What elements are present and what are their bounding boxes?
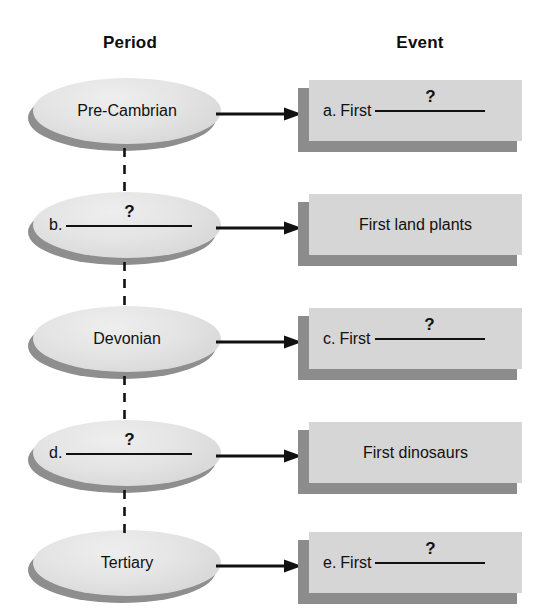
period-answer-blank[interactable]: d.? xyxy=(33,420,221,486)
period-node[interactable]: Devonian xyxy=(28,306,224,384)
period-node[interactable]: b.? xyxy=(28,192,224,270)
timeline-connector-dashed xyxy=(123,148,126,198)
event-box-shadow-bottom xyxy=(298,141,517,152)
event-item-letter: a. xyxy=(323,102,336,120)
column-header-event: Event xyxy=(320,33,520,53)
event-box-shadow-bottom xyxy=(298,255,517,266)
diagram-row: d.?First dinosaurs xyxy=(0,420,552,498)
question-mark: ? xyxy=(424,315,434,335)
event-box[interactable]: e.First? xyxy=(298,532,524,606)
event-box-shadow-bottom xyxy=(298,593,517,604)
event-prefix-text: First xyxy=(339,330,370,348)
timeline-connector-dashed xyxy=(123,376,126,426)
event-prefix-text: First xyxy=(340,554,371,572)
period-answer-blank[interactable]: b.? xyxy=(33,192,221,258)
event-box-shadow-left xyxy=(298,540,309,604)
event-item-letter: e. xyxy=(323,554,336,572)
event-blank-line[interactable]: ? xyxy=(375,109,485,112)
event-box-shadow-left xyxy=(298,430,309,494)
arrow-right-icon xyxy=(216,559,302,573)
event-box[interactable]: a.First? xyxy=(298,80,524,154)
event-item-letter: c. xyxy=(323,330,335,348)
diagram-row: Devonianc.First? xyxy=(0,306,552,384)
period-item-letter: d. xyxy=(49,444,62,462)
period-node-label: Tertiary xyxy=(33,530,221,596)
event-blank-line[interactable]: ? xyxy=(375,337,485,340)
event-answer-blank[interactable]: c.First? xyxy=(309,308,522,369)
period-node[interactable]: d.? xyxy=(28,420,224,498)
event-prefix-text: First xyxy=(340,102,371,120)
period-node-label: Pre-Cambrian xyxy=(33,78,221,144)
event-box-label: First dinosaurs xyxy=(309,422,522,483)
period-item-letter: b. xyxy=(49,216,62,234)
event-box-shadow-bottom xyxy=(298,483,517,494)
event-blank-line[interactable]: ? xyxy=(375,561,485,564)
diagram-row: b.?First land plants xyxy=(0,192,552,270)
period-blank-line[interactable]: ? xyxy=(66,224,192,227)
arrow-right-icon xyxy=(216,221,302,235)
question-mark: ? xyxy=(425,539,435,559)
event-box[interactable]: First land plants xyxy=(298,194,524,268)
event-box-shadow-left xyxy=(298,202,309,266)
event-box[interactable]: c.First? xyxy=(298,308,524,382)
arrow-right-icon xyxy=(216,107,302,121)
arrow-right-icon xyxy=(216,335,302,349)
event-answer-blank[interactable]: e.First? xyxy=(309,532,522,593)
event-answer-blank[interactable]: a.First? xyxy=(309,80,522,141)
period-node-label: Devonian xyxy=(33,306,221,372)
column-header-period: Period xyxy=(40,33,220,53)
timeline-matching-diagram: Period Event Pre-Cambriana.First?b.?Firs… xyxy=(0,0,552,615)
arrow-right-icon xyxy=(216,449,302,463)
event-box-shadow-left xyxy=(298,88,309,152)
diagram-row: Pre-Cambriana.First? xyxy=(0,78,552,156)
period-node[interactable]: Tertiary xyxy=(28,530,224,608)
timeline-connector-dashed xyxy=(123,490,126,536)
event-box-label: First land plants xyxy=(309,194,522,255)
event-box[interactable]: First dinosaurs xyxy=(298,422,524,496)
diagram-row: Tertiarye.First? xyxy=(0,530,552,608)
question-mark: ? xyxy=(124,202,134,222)
event-box-shadow-bottom xyxy=(298,369,517,380)
event-box-shadow-left xyxy=(298,316,309,380)
period-node[interactable]: Pre-Cambrian xyxy=(28,78,224,156)
timeline-connector-dashed xyxy=(123,262,126,312)
question-mark: ? xyxy=(425,87,435,107)
period-blank-line[interactable]: ? xyxy=(66,452,192,455)
question-mark: ? xyxy=(124,430,134,450)
